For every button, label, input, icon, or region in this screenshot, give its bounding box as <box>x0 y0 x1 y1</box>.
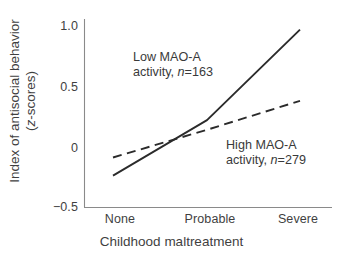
y-tick-label-0: 0 <box>40 141 78 155</box>
x-tick-label-severe: Severe <box>267 212 329 226</box>
x-tick-label-none: None <box>88 212 152 226</box>
y-tick-label-neg-0-5: −0.5 <box>40 200 78 214</box>
annotation-high-mao-a: High MAO-A activity, n=279 <box>226 138 306 168</box>
annotation-low-line2-italic: n <box>178 65 185 79</box>
chart-figure: 1.0 0.5 0 −0.5 None Probable Severe Chil… <box>0 0 343 260</box>
annotation-low-mao-a: Low MAO-A activity, n=163 <box>133 50 213 80</box>
y-tick-label-1-0: 1.0 <box>40 19 78 33</box>
annotation-low-line2-suffix: =163 <box>185 65 213 79</box>
annotation-low-line1: Low MAO-A <box>133 50 213 65</box>
y-axis-title: Index of antisocial behavior (z-scores) <box>7 1 39 201</box>
x-axis-title: Childhood maltreatment <box>0 234 343 249</box>
y-axis-title-line2-italic: z <box>23 120 38 127</box>
y-axis-title-line2: (z-scores) <box>23 1 39 201</box>
annotation-high-line2-italic: n <box>271 153 278 167</box>
annotation-high-line2-suffix: =279 <box>278 153 306 167</box>
y-axis-title-line2-prefix: ( <box>23 127 38 132</box>
y-axis-title-line2-suffix: -scores) <box>23 71 38 120</box>
y-tick-label-0-5: 0.5 <box>40 80 78 94</box>
x-tick-label-probable: Probable <box>177 212 243 226</box>
y-axis-title-line1: Index of antisocial behavior <box>7 19 22 183</box>
annotation-high-line1: High MAO-A <box>226 138 306 153</box>
annotation-high-line2: activity, n=279 <box>226 153 306 168</box>
annotation-high-line2-prefix: activity, <box>226 153 271 167</box>
annotation-low-line2-prefix: activity, <box>133 65 178 79</box>
annotation-low-line2: activity, n=163 <box>133 65 213 80</box>
